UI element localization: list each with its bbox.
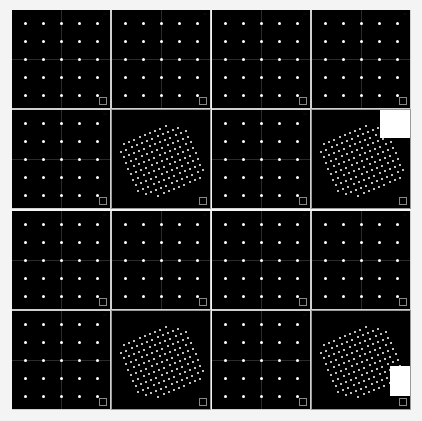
lattice-spot — [355, 176, 357, 178]
spot — [324, 223, 327, 226]
lattice-spot — [180, 333, 182, 335]
spot — [260, 176, 263, 179]
grid-view[interactable]: ···· — [312, 10, 410, 108]
spot — [278, 58, 281, 61]
perspective-view[interactable] — [312, 110, 410, 208]
lattice-spot — [163, 380, 165, 382]
perspective-view[interactable] — [112, 110, 210, 208]
grid-view[interactable]: ···· — [12, 211, 110, 309]
lattice-spot — [161, 348, 163, 350]
lattice-spot — [369, 338, 371, 340]
lattice-spot — [182, 138, 184, 140]
lattice-spot — [346, 153, 348, 155]
grid-view[interactable]: ···· — [312, 211, 410, 309]
lattice-spot — [343, 174, 345, 176]
spot — [142, 223, 145, 226]
lattice-spot — [178, 387, 180, 389]
spot — [324, 259, 327, 262]
lattice-spot — [161, 361, 163, 363]
lattice-spot — [373, 175, 375, 177]
spot — [60, 395, 63, 398]
lattice-spot — [354, 344, 356, 346]
spot — [24, 295, 27, 298]
lattice-spot — [133, 353, 135, 355]
lattice-spot — [339, 337, 341, 339]
lattice-spot — [365, 185, 367, 187]
grid-view[interactable]: ···· — [212, 110, 310, 208]
spot — [360, 76, 363, 79]
lattice-spot — [382, 138, 384, 140]
spot — [260, 241, 263, 244]
spot — [260, 223, 263, 226]
blank-overlay — [390, 366, 410, 396]
lattice-spot — [189, 181, 191, 183]
lattice-spot — [145, 381, 147, 383]
lattice-spot — [361, 374, 363, 376]
spot — [142, 241, 145, 244]
lattice-spot — [359, 342, 361, 344]
grid-view[interactable]: ···· — [12, 10, 110, 108]
lattice-spot — [353, 157, 355, 159]
lattice-spot — [131, 347, 133, 349]
lattice-spot — [181, 379, 183, 381]
lattice-spot — [340, 169, 342, 171]
grid-view[interactable]: ···· — [12, 110, 110, 208]
grid-view[interactable]: ···· — [212, 211, 310, 309]
spot — [378, 277, 381, 280]
lattice-spot — [145, 394, 147, 396]
spot — [342, 295, 345, 298]
perspective-view[interactable] — [312, 311, 410, 409]
spot — [396, 40, 399, 43]
lattice-spot — [150, 392, 152, 394]
lattice-spot — [397, 171, 399, 173]
spot — [78, 140, 81, 143]
lattice-spot — [148, 159, 150, 161]
lattice-spot — [357, 396, 359, 398]
lattice-spot — [337, 190, 339, 192]
lattice-spot — [173, 188, 175, 190]
lattice-spot — [376, 381, 378, 383]
grid-view[interactable]: ···· — [212, 10, 310, 108]
grid-view[interactable]: ···· — [112, 211, 210, 309]
lattice-spot — [366, 372, 368, 374]
grid-view[interactable]: ···· — [212, 311, 310, 409]
spot — [60, 22, 63, 25]
lattice-spot — [176, 368, 178, 370]
lattice-spot — [161, 147, 163, 149]
spot — [124, 259, 127, 262]
spot — [160, 40, 163, 43]
perspective-view[interactable] — [112, 311, 210, 409]
lattice-spot — [371, 156, 373, 158]
quadrant-q2: ············ — [212, 10, 411, 209]
lattice-spot — [390, 342, 392, 344]
spot — [224, 76, 227, 79]
lattice-spot — [337, 391, 339, 393]
spot — [124, 241, 127, 244]
spot — [296, 140, 299, 143]
lattice-spot — [359, 128, 361, 130]
grid-view[interactable]: ···· — [112, 10, 210, 108]
lattice-spot — [133, 366, 135, 368]
spot — [242, 94, 245, 97]
spot — [296, 223, 299, 226]
spot — [224, 377, 227, 380]
spot — [242, 223, 245, 226]
lattice-spot — [161, 173, 163, 175]
spot — [60, 58, 63, 61]
lattice-spot — [359, 355, 361, 357]
lattice-spot — [383, 184, 385, 186]
spot — [342, 58, 345, 61]
lattice-spot — [381, 165, 383, 167]
spot — [296, 277, 299, 280]
grid-view[interactable]: ···· — [12, 311, 110, 409]
lattice-spot — [135, 372, 137, 374]
lattice-spot — [185, 130, 187, 132]
spot — [278, 122, 281, 125]
lattice-spot — [171, 182, 173, 184]
lattice-spot — [387, 337, 389, 339]
lattice-spot — [344, 335, 346, 337]
lattice-spot — [137, 177, 139, 179]
spot — [178, 40, 181, 43]
lattice-spot — [377, 153, 379, 155]
lattice-spot — [341, 343, 343, 345]
